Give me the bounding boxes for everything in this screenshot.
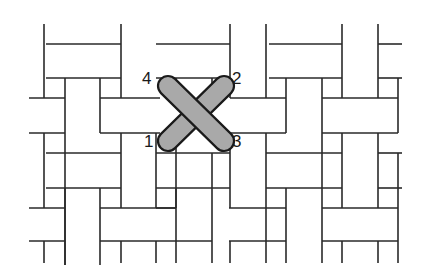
cross-stitch bbox=[154, 72, 238, 155]
point-label-2: 2 bbox=[232, 70, 241, 87]
point-label-4: 4 bbox=[142, 70, 151, 87]
point-label-1: 1 bbox=[144, 133, 153, 150]
basket-weave-diagram bbox=[0, 0, 428, 273]
point-label-3: 3 bbox=[232, 133, 241, 150]
